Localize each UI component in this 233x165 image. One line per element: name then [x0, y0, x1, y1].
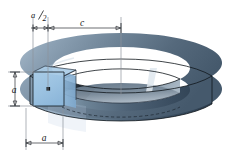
cross-section-side-face — [64, 72, 76, 108]
width-label: a — [42, 133, 47, 143]
torus-figure: a 2 c a — [0, 0, 233, 165]
torus-figure-svg: a 2 c a — [0, 0, 233, 165]
cross-section-element — [33, 66, 76, 108]
mean-radius-label: c — [80, 18, 85, 28]
half-width-label-denominator: 2 — [43, 14, 47, 23]
half-width-label-numerator: a — [31, 10, 35, 20]
height-label: a — [12, 85, 17, 95]
